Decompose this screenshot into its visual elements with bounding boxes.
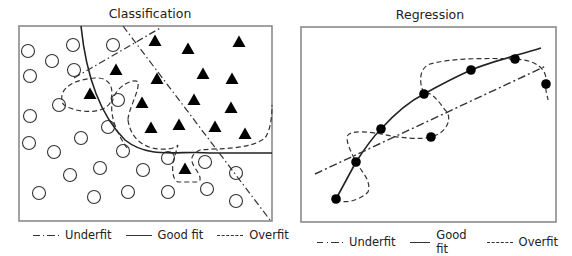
class-a-circle-marker [75, 132, 88, 145]
legend-overfit: Overfit [217, 228, 288, 242]
legend-underfit-label: Underfit [349, 235, 396, 249]
dashed-line-icon [487, 242, 513, 243]
class-a-circle-marker [162, 186, 175, 199]
legend-good-fit-label: Good fit [158, 228, 204, 242]
regression-point-marker [510, 54, 520, 64]
regression-title: Regression [380, 7, 480, 22]
class-a-circle-marker [24, 110, 37, 123]
regression-data-points [331, 54, 551, 204]
class-a-circle-marker [48, 146, 61, 159]
class-a-circle-marker [23, 137, 36, 150]
class-b-triangle-marker [239, 128, 252, 140]
class-b-triangle-marker [182, 43, 195, 55]
classification-legend: Underfit Good fit Overfit [33, 228, 303, 242]
legend-good-fit: Good fit [410, 228, 473, 256]
class-b-triangle-marker [151, 73, 164, 85]
class-a-circle-marker [46, 55, 59, 68]
class-a-circle-marker [33, 187, 46, 200]
class-a-circle-marker [22, 45, 35, 58]
class-a-circle-marker [94, 162, 107, 175]
classification-overfit-curve-2 [112, 81, 139, 148]
legend-underfit: Underfit [317, 235, 396, 249]
legend-underfit-label: Underfit [65, 228, 112, 242]
regression-underfit-line [315, 66, 546, 174]
legend-overfit-label: Overfit [519, 235, 558, 249]
class-a-circle-marker [68, 64, 81, 77]
class-a-circle-marker [112, 94, 125, 107]
class-b-triangle-marker [173, 119, 186, 131]
class-a-circles [22, 39, 243, 208]
class-b-triangle-marker [209, 121, 222, 133]
classification-title: Classification [95, 6, 205, 21]
class-a-circle-marker [88, 191, 101, 204]
dash-dot-line-icon [317, 242, 343, 243]
class-b-triangle-marker [233, 36, 246, 48]
class-a-circle-marker [102, 121, 115, 134]
regression-point-marker [376, 124, 386, 134]
class-a-circle-marker [67, 39, 80, 52]
class-a-circle-marker [230, 195, 243, 208]
regression-point-marker [351, 157, 361, 167]
regression-point-marker [331, 194, 341, 204]
class-b-triangle-marker [145, 122, 158, 134]
class-b-triangle-marker [136, 97, 149, 109]
class-a-circle-marker [122, 186, 135, 199]
classification-underfit-line [123, 26, 270, 220]
legend-overfit-label: Overfit [249, 228, 288, 242]
class-a-circle-marker [201, 183, 214, 196]
class-a-circle-marker [64, 169, 77, 182]
class-b-triangle-marker [188, 94, 201, 106]
regression-point-marker [466, 65, 476, 75]
class-b-triangle-marker [149, 35, 162, 47]
class-b-triangle-marker [225, 102, 238, 114]
legend-underfit: Underfit [33, 228, 112, 242]
regression-point-marker [419, 89, 429, 99]
dash-dot-line-icon [33, 235, 59, 236]
class-b-triangle-marker [226, 73, 239, 85]
regression-good-fit-curve [336, 48, 541, 199]
legend-good-fit-label: Good fit [436, 228, 472, 256]
regression-point-marker [541, 79, 551, 89]
class-a-circle-marker [199, 156, 212, 169]
class-b-triangle-marker [179, 163, 192, 175]
solid-line-icon [126, 235, 152, 236]
class-a-circle-marker [24, 70, 37, 83]
class-b-triangle-marker [110, 64, 123, 76]
legend-overfit: Overfit [487, 235, 558, 249]
regression-legend: Underfit Good fit Overfit [317, 228, 572, 256]
legend-good-fit: Good fit [126, 228, 204, 242]
class-a-circle-marker [117, 145, 130, 158]
class-a-circle-marker [107, 39, 120, 52]
dashed-line-icon [217, 235, 243, 236]
class-b-triangle-marker [197, 68, 210, 80]
classification-frame [19, 26, 272, 221]
regression-point-marker [426, 132, 436, 142]
class-a-circle-marker [137, 164, 150, 177]
solid-line-icon [410, 242, 431, 243]
regression-overfit-curve [336, 59, 548, 202]
